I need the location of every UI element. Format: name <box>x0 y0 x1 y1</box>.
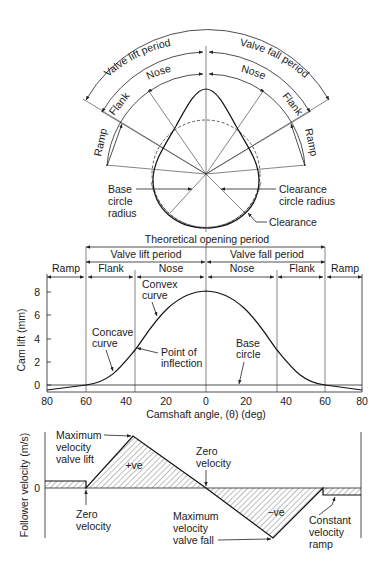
segment-nose-right: Nose <box>230 262 255 274</box>
label-ramp-left: Ramp <box>91 127 109 157</box>
label-nose-right: Nose <box>240 62 268 82</box>
annotation-negative: −ve <box>267 506 284 518</box>
segment-nose-left: Nose <box>159 262 184 274</box>
svg-text:8: 8 <box>34 286 40 298</box>
callout-base-circle-1: Base <box>108 183 132 195</box>
callout-clearance-circle-2: circle radius <box>279 195 335 207</box>
annotation-zero-bottom-1: Zero <box>76 508 98 520</box>
convex-leader <box>152 302 157 316</box>
annotation-constant-ramp-1: Constant <box>309 514 351 526</box>
segment-ramp-left: Ramp <box>52 262 80 274</box>
base-circle-leader-chart <box>239 362 244 384</box>
cam-diagram-figure: Theoretical opening period Valve lift pe… <box>0 0 386 562</box>
svg-text:2: 2 <box>34 356 40 368</box>
annotation-constant-ramp-3: ramp <box>309 538 333 550</box>
svg-text:40: 40 <box>280 395 292 407</box>
concave-leader <box>106 350 113 371</box>
label-flank-left: Flank <box>106 89 132 117</box>
svg-text:0: 0 <box>34 379 40 391</box>
callout-clearance-circle-1: Clearance <box>279 183 327 195</box>
cam-lift-chart: Theoretical opening period Valve lift pe… <box>15 233 368 420</box>
annotation-positive: +ve <box>125 459 142 471</box>
svg-text:20: 20 <box>240 395 252 407</box>
callout-base-circle-3: radius <box>108 207 137 219</box>
annotation-max-fall-1: Maximum <box>173 510 219 522</box>
constant-ramp-leader <box>319 497 335 515</box>
annotation-zero-top-2: velocity <box>196 457 232 469</box>
callout-clearance: Clearance <box>269 216 317 228</box>
annotation-convex-2: curve <box>142 289 168 301</box>
inflection-leader <box>137 348 158 353</box>
svg-text:80: 80 <box>356 395 368 407</box>
ramp-arrow-left <box>107 124 122 166</box>
annotation-max-lift-3: valve lift <box>56 453 94 465</box>
segment-flank-left: Flank <box>98 262 124 274</box>
max-fall-leader <box>218 539 271 540</box>
cam-profile-diagram: Theoretical opening period Valve lift pe… <box>83 0 335 232</box>
svg-text:20: 20 <box>160 395 172 407</box>
label-nose-left: Nose <box>144 62 172 82</box>
callout-base-circle-2: circle <box>108 195 133 207</box>
label-theoretical-opening-period: Theoretical opening period <box>145 233 269 245</box>
clearance-leader <box>248 213 267 222</box>
annotation-concave-2: curve <box>92 337 118 349</box>
annotation-constant-ramp-2: velocity <box>309 526 345 538</box>
annotation-zero-bottom-2: velocity <box>76 520 112 532</box>
label-valve-lift-period-chart: Valve lift period <box>110 248 181 260</box>
annotation-base-circle-2: circle <box>236 348 261 360</box>
annotation-max-lift-2: velocity <box>56 441 92 453</box>
y-ticks: 0 2 4 6 8 <box>34 286 51 391</box>
svg-text:0: 0 <box>203 395 209 407</box>
x-ticks: 80 60 40 20 0 20 40 60 80 <box>41 395 368 407</box>
velocity-y-axis-label: Follower velocity (m/s) <box>18 433 30 537</box>
annotation-max-fall-2: velocity <box>173 522 209 534</box>
label-ramp-right: Ramp <box>303 127 321 157</box>
svg-text:40: 40 <box>120 395 132 407</box>
x-axis-label: Camshaft angle, (θ) (deg) <box>146 408 266 420</box>
annotation-max-lift-1: Maximum <box>56 429 102 441</box>
label-valve-fall-period-chart: Valve fall period <box>230 248 304 260</box>
max-lift-leader <box>104 435 131 436</box>
svg-text:4: 4 <box>34 333 40 345</box>
segment-ramp-right: Ramp <box>331 262 359 274</box>
annotation-max-fall-3: valve fall <box>173 534 214 546</box>
velocity-chart: 0 Follower velocity (m/s) Maximum veloci… <box>18 429 361 550</box>
annotation-inflection-2: inflection <box>161 357 203 369</box>
svg-text:60: 60 <box>80 395 92 407</box>
y-axis-label: Cam lift (mm) <box>15 309 27 372</box>
annotation-zero-top-1: Zero <box>196 445 218 457</box>
segment-flank-right: Flank <box>289 262 315 274</box>
svg-text:60: 60 <box>319 395 331 407</box>
velocity-zero-tick: 0 <box>34 482 40 494</box>
label-flank-right: Flank <box>281 90 307 118</box>
ramp-arrow-right <box>291 124 305 166</box>
svg-text:6: 6 <box>34 309 40 321</box>
svg-text:80: 80 <box>41 395 53 407</box>
